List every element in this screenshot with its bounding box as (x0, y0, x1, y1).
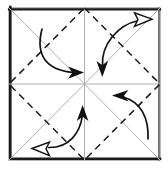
fold-diagram-canvas (0, 0, 168, 169)
origami-fold-diagram: Square fold pattern with rotational fold… (0, 0, 168, 169)
crease-line-group (9, 8, 160, 160)
